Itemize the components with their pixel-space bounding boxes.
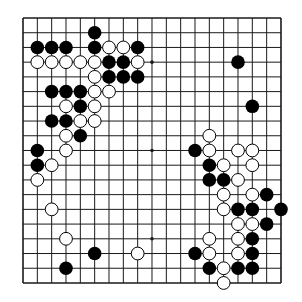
white-stone[interactable]	[60, 100, 73, 113]
black-stone[interactable]	[246, 232, 260, 246]
white-stone[interactable]	[88, 70, 101, 83]
white-stone[interactable]	[74, 115, 87, 128]
white-stone[interactable]	[217, 203, 230, 216]
black-stone[interactable]	[45, 41, 59, 55]
white-stone[interactable]	[217, 277, 230, 290]
black-stone[interactable]	[31, 158, 45, 172]
white-stone[interactable]	[246, 159, 259, 172]
black-stone[interactable]	[188, 247, 202, 261]
black-stone[interactable]	[31, 144, 45, 158]
black-stone[interactable]	[260, 188, 274, 202]
white-stone[interactable]	[246, 218, 259, 231]
star-point	[150, 60, 154, 64]
white-stone[interactable]	[217, 159, 230, 172]
white-stone[interactable]	[232, 247, 245, 260]
white-stone[interactable]	[232, 174, 245, 187]
black-stone[interactable]	[260, 217, 274, 231]
white-stone[interactable]	[45, 159, 58, 172]
white-stone[interactable]	[131, 56, 144, 69]
star-point	[150, 149, 154, 153]
white-stone[interactable]	[60, 56, 73, 69]
black-stone[interactable]	[246, 261, 260, 275]
black-stone[interactable]	[74, 100, 88, 114]
black-stone[interactable]	[59, 85, 73, 99]
white-stone[interactable]	[246, 144, 259, 157]
white-stone[interactable]	[88, 115, 101, 128]
white-stone[interactable]	[45, 203, 58, 216]
white-stone[interactable]	[217, 188, 230, 201]
black-stone[interactable]	[274, 203, 288, 217]
white-stone[interactable]	[203, 247, 216, 260]
black-stone[interactable]	[246, 247, 260, 261]
white-stone[interactable]	[203, 144, 216, 157]
white-stone[interactable]	[103, 85, 116, 98]
black-stone[interactable]	[203, 158, 217, 172]
white-stone[interactable]	[232, 232, 245, 245]
black-stone[interactable]	[246, 203, 260, 217]
black-stone[interactable]	[102, 70, 116, 84]
white-stone[interactable]	[246, 188, 259, 201]
black-stone[interactable]	[231, 203, 245, 217]
white-stone[interactable]	[88, 56, 101, 69]
black-stone[interactable]	[131, 70, 145, 84]
black-stone[interactable]	[131, 41, 145, 55]
black-stone[interactable]	[74, 85, 88, 99]
black-stone[interactable]	[203, 173, 217, 187]
go-board[interactable]	[0, 0, 302, 302]
black-stone[interactable]	[231, 261, 245, 275]
black-stone[interactable]	[217, 173, 231, 187]
black-stone[interactable]	[88, 247, 102, 261]
black-stone[interactable]	[231, 55, 245, 69]
black-stone[interactable]	[117, 70, 131, 84]
white-stone[interactable]	[60, 144, 73, 157]
black-stone[interactable]	[74, 129, 88, 143]
white-stone[interactable]	[131, 247, 144, 260]
white-stone[interactable]	[60, 232, 73, 245]
white-stone[interactable]	[74, 56, 87, 69]
black-stone[interactable]	[59, 41, 73, 55]
white-stone[interactable]	[88, 85, 101, 98]
black-stone[interactable]	[188, 144, 202, 158]
go-board-canvas[interactable]	[0, 0, 302, 302]
white-stone[interactable]	[203, 232, 216, 245]
white-stone[interactable]	[217, 262, 230, 275]
white-stone[interactable]	[232, 144, 245, 157]
black-stone[interactable]	[88, 41, 102, 55]
white-stone[interactable]	[45, 56, 58, 69]
black-stone[interactable]	[246, 100, 260, 114]
black-stone[interactable]	[31, 41, 45, 55]
white-stone[interactable]	[60, 129, 73, 142]
black-stone[interactable]	[59, 261, 73, 275]
white-stone[interactable]	[232, 218, 245, 231]
white-stone[interactable]	[31, 174, 44, 187]
white-stone[interactable]	[88, 100, 101, 113]
black-stone[interactable]	[88, 26, 102, 40]
star-point	[150, 237, 154, 241]
white-stone[interactable]	[203, 129, 216, 142]
black-stone[interactable]	[203, 261, 217, 275]
white-stone[interactable]	[103, 41, 116, 54]
black-stone[interactable]	[102, 55, 116, 69]
black-stone[interactable]	[45, 85, 59, 99]
white-stone[interactable]	[117, 41, 130, 54]
black-stone[interactable]	[59, 114, 73, 128]
white-stone[interactable]	[31, 56, 44, 69]
black-stone[interactable]	[45, 114, 59, 128]
black-stone[interactable]	[117, 55, 131, 69]
